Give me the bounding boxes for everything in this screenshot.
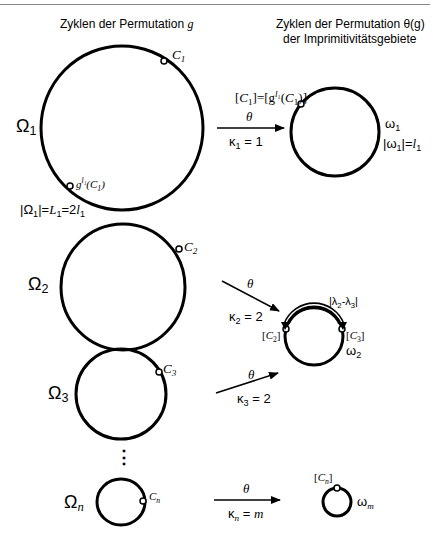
right-header-line2: der Imprimitivitätsgebiete: [283, 33, 416, 45]
theta-label-n: θ: [243, 482, 249, 495]
ellipsis: ⋮: [115, 448, 133, 466]
lambda-arc-label: |λ2-λ3|: [329, 296, 358, 310]
kappa-n-label: κn = m: [228, 507, 263, 523]
omega-1-cycle: [41, 46, 203, 210]
left-header: Zyklen der Permutation g: [60, 18, 193, 30]
omega-n-cycle: [97, 479, 145, 525]
point-cn-marker: [140, 498, 146, 504]
point-c3-label: C3: [163, 362, 176, 378]
lambda-arc-inner: [289, 308, 339, 324]
omega-1-size-label: |Ω1|=L1=2l1: [20, 203, 85, 219]
kappa-3-label: κ3 = 2: [237, 392, 271, 408]
omega-small-2-cycle: [285, 307, 343, 365]
diagram-canvas: [0, 0, 434, 535]
point-gl1-c1-marker: [67, 183, 73, 189]
omega-2-label: Ω2: [28, 275, 48, 296]
omega-small-m-label: ωm: [357, 495, 374, 511]
right-header-line1: Zyklen der Permutation θ(g): [276, 18, 425, 30]
theta-label-3: θ: [248, 368, 254, 381]
omega-small-2-label: ω2: [346, 344, 361, 360]
gl1-c1-label: gl₁(C1): [76, 177, 105, 193]
class-cn-marker: [334, 485, 340, 491]
class-c1-label: [C1]=[gl₁(C1)]: [235, 90, 307, 107]
point-c2-marker: [176, 246, 182, 252]
omega-small-m-cycle: [323, 488, 351, 516]
omega-small-1-label: ω1: [385, 117, 400, 133]
omega-1-label: Ω1: [16, 117, 36, 138]
omega-3-label: Ω3: [48, 384, 68, 405]
theta-label-1: θ: [246, 110, 252, 123]
omega-small-1-size-label: |ω1|=l1: [383, 137, 421, 153]
point-c2-label: C2: [184, 240, 197, 256]
left-header-var: g: [187, 17, 193, 31]
point-c1-marker: [161, 58, 167, 64]
kappa-1-label: κ1 = 1: [229, 135, 263, 151]
omega-n-label: Ωn: [64, 493, 84, 514]
left-header-text: Zyklen der Permutation: [60, 17, 184, 31]
point-c1-label: C1: [172, 48, 185, 64]
class-c3-label: [C3]: [346, 330, 365, 344]
kappa-2-label: κ2 = 2: [229, 310, 263, 326]
omega-2-cycle: [61, 224, 185, 350]
theta-arrow-3: [216, 373, 278, 393]
point-cn-label: Cn: [149, 491, 160, 505]
class-cn-label: [Cn]: [314, 472, 333, 486]
point-c3-marker: [156, 369, 162, 375]
theta-label-2: θ: [247, 277, 253, 290]
class-c2-label: [C2]: [262, 330, 281, 344]
omega-3-cycle: [76, 349, 166, 439]
